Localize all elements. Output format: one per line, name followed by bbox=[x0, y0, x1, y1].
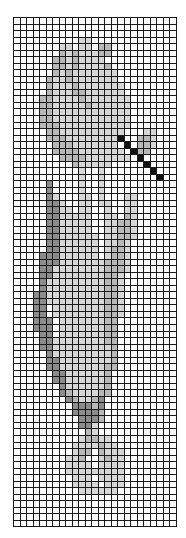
cross-stitch-grid bbox=[13, 17, 177, 527]
grid-cell bbox=[170, 521, 177, 528]
